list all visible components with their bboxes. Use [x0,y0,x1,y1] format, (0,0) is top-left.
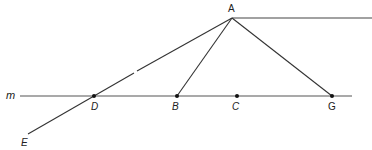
label-b: B [172,102,179,112]
segment-a-g [232,18,332,96]
point-b [175,94,179,98]
label-a: A [228,4,235,14]
point-d [92,94,96,98]
label-m: m [6,90,15,101]
label-d: D [91,102,98,112]
point-g [330,94,334,98]
segment-gap-lower-e [28,73,134,134]
label-g: G [328,102,336,112]
segment-a-gap-upper [137,18,232,71]
label-e: E [21,138,28,148]
label-c: C [232,102,239,112]
point-c [235,94,239,98]
geometry-figure [0,0,372,150]
segment-a-b [177,18,232,96]
